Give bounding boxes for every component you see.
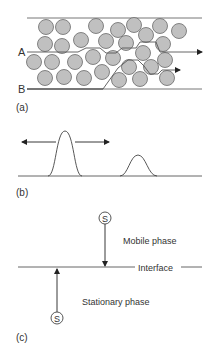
- packing-particle: [160, 71, 175, 86]
- packing-particle: [86, 50, 101, 65]
- packing-particle: [153, 19, 168, 34]
- panel-b-label: (b): [16, 187, 28, 198]
- packing-particle: [122, 60, 137, 75]
- panel-c: S Mobile phase Interface S Stationary ph…: [16, 212, 202, 343]
- packing-particle: [38, 37, 53, 52]
- packing-particle: [112, 73, 127, 88]
- interface-label: Interface: [138, 263, 173, 273]
- packing-particle: [38, 71, 53, 86]
- packing-particle: [89, 19, 104, 34]
- packing-particles: [27, 18, 187, 88]
- panel-a: A B (a): [16, 18, 202, 114]
- panel-b: (b): [16, 131, 202, 198]
- packing-particle: [139, 28, 154, 43]
- packing-particle: [45, 55, 60, 70]
- packing-particle: [95, 65, 110, 80]
- packing-particle: [99, 34, 114, 49]
- solute-symbol-stationary: S: [54, 314, 60, 324]
- packing-particle: [27, 55, 42, 70]
- packing-particle: [111, 23, 126, 38]
- packing-particle: [56, 20, 71, 35]
- chromatography-diagram: A B (a) (b) S Mobile phase Interface S S…: [0, 0, 221, 344]
- peak-2: [120, 155, 157, 176]
- packing-particle: [77, 71, 92, 86]
- solute-symbol-mobile: S: [102, 214, 108, 224]
- packing-particle: [156, 37, 171, 52]
- packing-particle: [74, 33, 89, 48]
- packing-particle: [144, 60, 159, 75]
- stationary-phase-label: Stationary phase: [82, 297, 150, 307]
- panel-c-label: (c): [16, 332, 28, 343]
- packing-particle: [39, 20, 54, 35]
- panel-a-label: (a): [16, 102, 28, 113]
- packing-particle: [127, 18, 142, 33]
- packing-particle: [136, 46, 151, 61]
- path-a-label: A: [18, 46, 26, 58]
- packing-particle: [57, 70, 72, 85]
- path-b-label: B: [18, 83, 25, 95]
- peak-1: [48, 131, 82, 176]
- packing-particle: [68, 55, 83, 70]
- packing-particle: [158, 53, 173, 68]
- mobile-phase-label: Mobile phase: [123, 236, 177, 246]
- packing-particle: [133, 72, 148, 87]
- packing-particle: [55, 39, 70, 54]
- packing-particle: [172, 24, 187, 39]
